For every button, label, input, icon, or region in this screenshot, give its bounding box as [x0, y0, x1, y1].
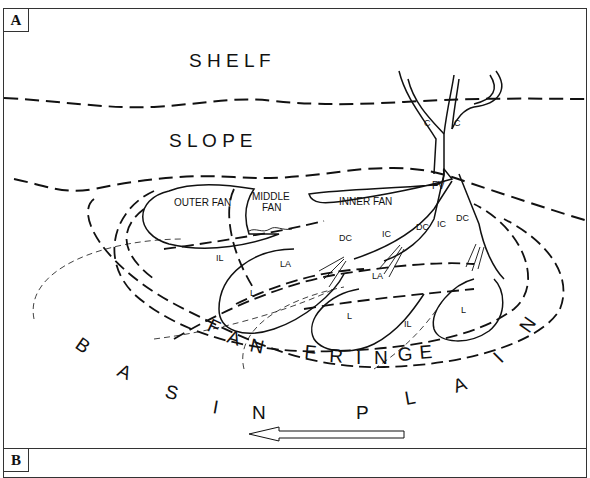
svg-text:B: B	[72, 333, 94, 357]
svg-text:F: F	[204, 315, 223, 339]
basin-plain-label: B A S I N P L A I N	[72, 313, 540, 423]
label-ic-1: IC	[382, 229, 392, 239]
zone-label-slope: S L O P E	[169, 130, 252, 151]
svg-text:G: G	[397, 343, 413, 365]
svg-text:N: N	[248, 334, 266, 357]
svg-text:N: N	[374, 347, 388, 368]
svg-text:L: L	[403, 386, 417, 409]
svg-text:N: N	[252, 402, 266, 423]
label-la-2: LA	[372, 271, 383, 281]
panel-b-label: B	[4, 449, 29, 472]
label-dc-2: DC	[416, 222, 429, 232]
label-outer-fan: OUTER FAN	[174, 197, 231, 208]
submarine-canyon	[399, 71, 502, 174]
current-direction-arrow	[249, 427, 404, 441]
svg-text:F: F	[304, 341, 317, 363]
distributary-fingers	[249, 228, 484, 287]
label-l-2: L	[347, 311, 352, 321]
label-ic-2: IC	[437, 219, 447, 229]
label-l-1: L	[250, 288, 255, 298]
svg-text:I: I	[489, 348, 508, 367]
svg-text:R: R	[329, 345, 344, 367]
svg-text:N: N	[515, 313, 540, 336]
label-middle-fan-1: MIDDLE	[252, 191, 290, 202]
label-canyon-1: C	[424, 118, 431, 128]
distributary-channel-2	[459, 174, 504, 279]
label-il-1: IL	[216, 253, 224, 263]
svg-text:E: E	[419, 341, 433, 363]
panel-a: A	[3, 8, 587, 452]
svg-text:A: A	[114, 360, 135, 385]
label-dc-1: DC	[339, 233, 352, 243]
svg-text:A: A	[450, 373, 469, 397]
panel-b: B	[3, 448, 587, 478]
fan-fringe-label: F A N F R I N G E	[204, 315, 433, 368]
label-middle-fan-2: FAN	[262, 202, 281, 213]
shelf-slope-boundary	[4, 98, 588, 107]
fan-outline	[88, 189, 563, 367]
label-l-3: L	[461, 305, 466, 315]
label-la-1: LA	[280, 259, 291, 269]
label-dc-3: DC	[456, 213, 469, 223]
svg-text:I: I	[356, 347, 361, 368]
slope-fan-boundary	[14, 168, 588, 221]
label-fan-valley: FV	[432, 180, 445, 191]
submarine-fan-diagram: S H E L F S L O P E OUTER FAN MIDDLE FAN…	[4, 9, 588, 453]
label-inner-fan: INNER FAN	[339, 196, 392, 207]
svg-text:S: S	[163, 381, 181, 405]
svg-text:P: P	[356, 402, 369, 423]
label-il-2: IL	[404, 319, 412, 329]
zone-label-shelf: S H E L F	[189, 50, 271, 71]
label-canyon-2: C	[454, 118, 461, 128]
svg-text:I: I	[211, 396, 220, 418]
